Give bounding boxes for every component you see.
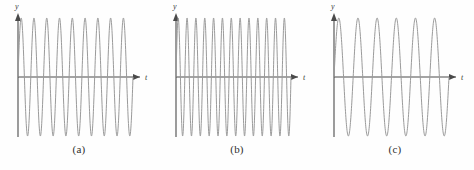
panel-b-t-axis-label: t [303, 73, 306, 82]
panel-a: y t (a) [0, 0, 158, 170]
panel-c: y t (c) [316, 0, 474, 170]
panel-b-waveform [176, 18, 291, 136]
panel-b: y t (b) [158, 0, 316, 170]
panel-a-y-axis-arrowhead [15, 13, 21, 21]
panel-a-caption: (a) [0, 143, 158, 155]
panel-a-y-axis-label: y [14, 2, 19, 11]
panel-c-axes [331, 13, 456, 137]
panel-a-t-axis-label: t [145, 73, 148, 82]
panel-b-t-axis-arrowhead [291, 74, 298, 80]
panel-b-caption: (b) [158, 143, 316, 155]
panel-a-t-axis-arrowhead [133, 74, 140, 80]
panel-b-y-axis-label: y [172, 2, 177, 11]
panel-c-svg: y t [316, 0, 474, 145]
panel-c-plot: y t [316, 0, 474, 145]
panel-c-t-axis-label: t [461, 73, 464, 82]
panel-b-svg: y t [158, 0, 316, 145]
panel-c-caption: (c) [316, 143, 474, 155]
panel-c-y-axis-arrowhead [331, 13, 337, 21]
panel-a-plot: y t [0, 0, 158, 145]
wave-frequency-figure: y t (a) y t (b) [0, 0, 474, 170]
panel-c-y-axis-label: y [330, 2, 335, 11]
panel-a-svg: y t [0, 0, 158, 145]
panel-c-t-axis-arrowhead [449, 74, 456, 80]
panel-b-plot: y t [158, 0, 316, 145]
